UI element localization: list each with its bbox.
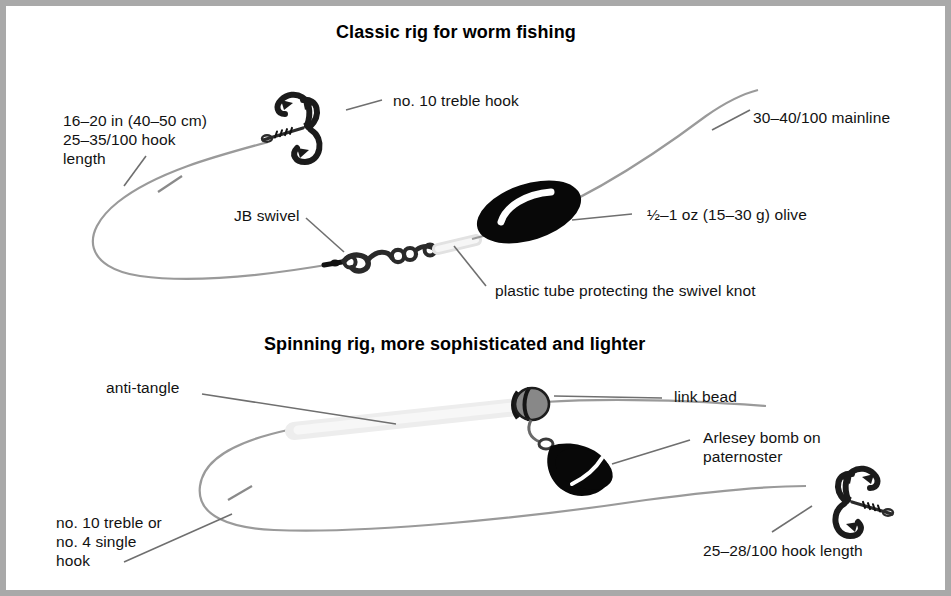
label-arlesey-bomb-line2: paternoster — [703, 447, 783, 466]
label-hook-length-2: 25–28/100 hook length — [703, 541, 863, 560]
label-hook-length-line1: 16–20 in (40–50 cm) — [63, 111, 207, 130]
label-hook-length-line3: length — [63, 149, 106, 168]
spinning-rig-graphic — [124, 388, 893, 562]
heading-spinning-rig: Spinning rig, more sophisticated and lig… — [264, 334, 645, 355]
figure-frame: Classic rig for worm fishing 16–20 in (4… — [0, 0, 951, 596]
label-plastic-tube: plastic tube protecting the swivel knot — [495, 281, 756, 300]
arlesey-bomb-icon — [547, 440, 619, 498]
pointer-jb-swivel — [306, 218, 344, 252]
label-arlesey-bomb-line1: Arlesey bomb on — [703, 428, 821, 447]
label-treble-hook: no. 10 treble hook — [393, 91, 519, 110]
treble-hook-icon — [262, 95, 320, 162]
label-mainline: 30–40/100 mainline — [753, 108, 890, 127]
pointer-hook-length — [124, 156, 146, 186]
pointer-hook-length-2 — [772, 506, 812, 532]
label-treble-or-single-line1: no. 10 treble or — [56, 513, 162, 532]
pointer-treble-hook — [346, 100, 382, 110]
label-treble-or-single-line2: no. 4 single — [56, 532, 136, 551]
olive-weight-icon — [469, 169, 589, 256]
label-anti-tangle: anti-tangle — [106, 378, 179, 397]
link-bead-icon — [514, 388, 550, 420]
pointer-olive — [572, 214, 632, 220]
pointer-arlesey — [612, 440, 690, 464]
pointer-plastic-tube — [454, 246, 486, 286]
treble-hook-icon-2 — [835, 469, 893, 536]
label-jb-swivel: JB swivel — [234, 206, 300, 225]
label-link-bead: link bead — [674, 387, 737, 406]
link-swivel — [529, 420, 540, 442]
hook-length-tick-2 — [228, 486, 252, 500]
heading-classic-rig: Classic rig for worm fishing — [336, 22, 576, 43]
hook-length-tick — [158, 176, 182, 192]
pointer-anti-tangle — [202, 394, 396, 424]
label-treble-or-single-line3: hook — [56, 551, 90, 570]
pointer-mainline — [712, 110, 750, 130]
label-olive-weight: ½–1 oz (15–30 g) olive — [647, 205, 807, 224]
label-hook-length-line2: 25–35/100 hook — [63, 130, 176, 149]
pointer-link-bead — [554, 396, 662, 398]
